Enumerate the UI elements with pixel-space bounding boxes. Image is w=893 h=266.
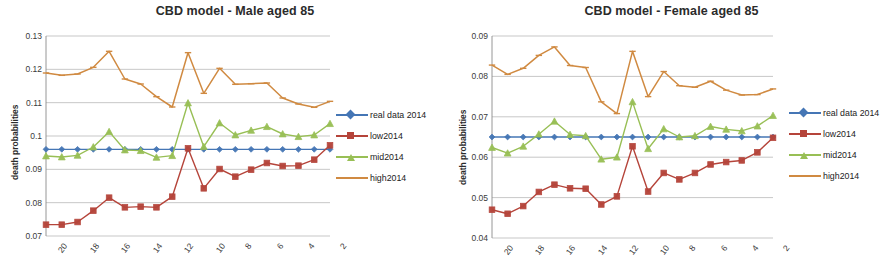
legend-item[interactable]: low2014 [336,125,426,146]
x-tick-label: 14 [150,241,164,255]
x-tick-label: 10 [213,241,227,255]
x-tick-label: 10 [658,243,672,257]
chart-canvas [492,36,773,238]
legend-swatch [789,129,821,139]
legend-item[interactable]: mid2014 [789,144,879,165]
legend-male: real data 2014low2014mid2014high2014 [336,104,426,188]
legend-item[interactable]: low2014 [789,123,879,144]
series-mid2014 [489,98,777,162]
chart-title-female: CBD model - Female aged 85 [450,4,893,18]
chart-title-male: CBD model - Male aged 85 [0,4,460,18]
legend-swatch [789,108,821,118]
legend-item[interactable]: high2014 [789,165,879,186]
legend-item[interactable]: mid2014 [336,146,426,167]
legend-label: mid2014 [370,152,404,162]
diamond-marker-icon [799,107,809,117]
y-tick-label: 0.07 [25,231,42,241]
plot-area-female [492,36,773,238]
chart-panel-male: CBD model - Male aged 85 death probabili… [0,0,450,266]
y-tick-label: 0.13 [25,31,42,41]
y-tick-label: 0.11 [26,98,42,108]
triangle-marker-icon [800,152,808,159]
square-marker-icon [347,132,354,139]
y-tick-label: 0.09 [25,164,42,174]
legend-label: real data 2014 [370,110,426,120]
y-tick-label: 0.08 [25,198,42,208]
x-tick-label: 6 [275,241,286,251]
x-tick-label: 20 [56,241,70,255]
y-tick-label: 0.07 [471,112,488,122]
x-tick-label: 14 [595,243,609,257]
legend-label: high2014 [823,171,859,181]
x-axis-ticks-male: 2018161412108642 [46,239,330,266]
y-tick-label: 0.08 [471,71,488,81]
y-tick-label: 0.09 [471,31,488,41]
y-tick-label: 0.04 [471,233,488,243]
x-tick-label: 6 [718,243,729,253]
x-tick-label: 4 [306,241,317,251]
legend-label: mid2014 [823,150,857,160]
diamond-marker-icon [346,109,356,119]
x-tick-label: 12 [627,243,641,257]
legend-label: low2014 [823,129,856,139]
y-axis-ticks-male: 0.070.080.090.10.110.120.13 [8,36,42,236]
x-axis-ticks-female: 2018161412108642 [492,241,773,266]
square-marker-icon [800,130,807,137]
x-tick-label: 12 [182,241,196,255]
x-tick-label: 16 [564,243,578,257]
legend-label: real data 2014 [823,108,879,118]
legend-swatch [789,171,821,181]
y-tick-label: 0.1 [30,131,42,141]
legend-label: low2014 [370,131,403,141]
legend-label: high2014 [370,173,406,183]
x-tick-label: 8 [687,243,698,253]
legend-swatch [336,110,368,120]
y-tick-label: 0.06 [471,152,488,162]
legend-swatch [336,152,368,162]
legend-item[interactable]: real data 2014 [789,102,879,123]
y-tick-label: 0.05 [471,193,488,203]
x-tick-label: 2 [781,243,792,253]
legend-swatch [789,150,821,160]
series-low2014 [489,135,776,217]
legend-swatch [336,131,368,141]
plot-area-male [46,36,330,236]
legend-item[interactable]: real data 2014 [336,104,426,125]
y-axis-ticks-female: 0.040.050.060.070.080.09 [454,36,488,238]
legend-item[interactable]: high2014 [336,167,426,188]
x-tick-label: 18 [533,243,547,257]
x-tick-label: 20 [502,243,516,257]
x-tick-label: 8 [243,241,254,251]
triangle-marker-icon [347,154,355,161]
x-tick-label: 16 [119,241,133,255]
legend-female: real data 2014low2014mid2014high2014 [789,102,879,186]
y-tick-label: 0.12 [25,64,42,74]
chart-canvas [46,36,330,236]
chart-panel-female: CBD model - Female aged 85 death probabi… [450,0,893,266]
series-low2014 [43,143,333,228]
x-tick-label: 4 [750,243,761,253]
legend-swatch [336,173,368,183]
x-tick-label: 18 [87,241,101,255]
x-tick-label: 2 [338,241,349,251]
figure-board: CBD model - Male aged 85 death probabili… [0,0,893,266]
